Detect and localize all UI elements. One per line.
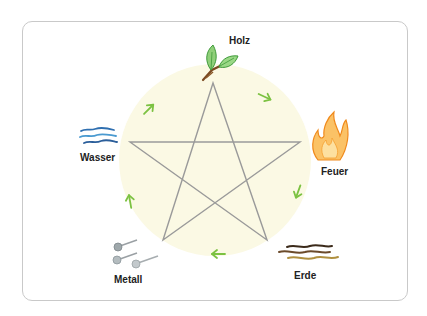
background-circle [119,64,311,256]
label-metall: Metall [114,274,142,285]
label-holz: Holz [229,35,250,46]
flame-icon [313,112,348,160]
label-feuer: Feuer [321,166,348,177]
label-erde: Erde [294,270,316,281]
five-elements-diagram [0,0,427,316]
label-wasser: Wasser [80,152,115,163]
water-waves-icon [80,128,117,143]
metal-pins-icon [113,240,158,268]
earth-strands-icon [279,245,338,259]
